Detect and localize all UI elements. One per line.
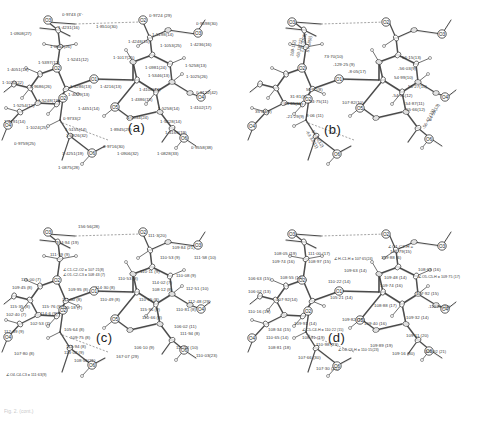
atom-label: O5: [357, 106, 364, 111]
atom-label: O4: [198, 95, 205, 100]
atom-label: O2: [60, 96, 67, 101]
atom-label: O1: [91, 77, 98, 82]
atom-label: O3: [439, 32, 446, 37]
atom-label: O2: [305, 97, 312, 102]
figure-caption: Fig. 2. (cont.): [4, 408, 33, 414]
atom-label: O6: [181, 348, 188, 353]
atom-label: O3: [289, 20, 296, 25]
atom-label: O3: [439, 244, 446, 249]
atom-label: O4: [249, 124, 256, 129]
atom-label: O1: [336, 289, 343, 294]
atom-label: O1: [91, 289, 98, 294]
atom-label: O6: [89, 363, 96, 368]
molecular-skeleton: O3O2O3O1O2O2O4O4O5O6O6O3O2O3O1O2O2O4O4O5…: [0, 0, 492, 424]
atom-label: O3: [289, 232, 296, 237]
atom-label: O6: [426, 137, 433, 142]
atom-label: O3: [195, 243, 202, 248]
atom-label: O4: [249, 336, 256, 341]
atom-label: O2: [299, 66, 306, 71]
atom-label: O2: [383, 20, 390, 25]
atom-label: O2: [60, 308, 67, 313]
atom-label: O6: [426, 349, 433, 354]
atom-label: O2: [299, 278, 306, 283]
atom-label: O5: [357, 318, 364, 323]
atom-label: O6: [181, 136, 188, 141]
atom-label: O2: [140, 230, 147, 235]
atom-label: O6: [89, 151, 96, 156]
atom-label: O4: [442, 307, 449, 312]
atom-label: O3: [45, 230, 52, 235]
atom-label: O6: [334, 152, 341, 157]
atom-label: O2: [305, 309, 312, 314]
atom-label: O4: [442, 95, 449, 100]
figure-root: O3O2O3O1O2O2O4O4O5O6O6O3O2O3O1O2O2O4O4O5…: [0, 0, 492, 424]
atom-label: O3: [195, 31, 202, 36]
atom-label: O6: [334, 364, 341, 369]
atom-label: O2: [54, 66, 61, 71]
atom-label: O1: [336, 77, 343, 82]
atom-label: O5: [112, 317, 119, 322]
atom-label: O2: [383, 232, 390, 237]
atom-label: O4: [198, 307, 205, 312]
atom-label: O5: [112, 105, 119, 110]
atom-label: O4: [5, 123, 12, 128]
atom-label: O3: [45, 18, 52, 23]
atom-label: O4: [5, 335, 12, 340]
atom-label: O2: [140, 18, 147, 23]
atom-label: O2: [54, 278, 61, 283]
